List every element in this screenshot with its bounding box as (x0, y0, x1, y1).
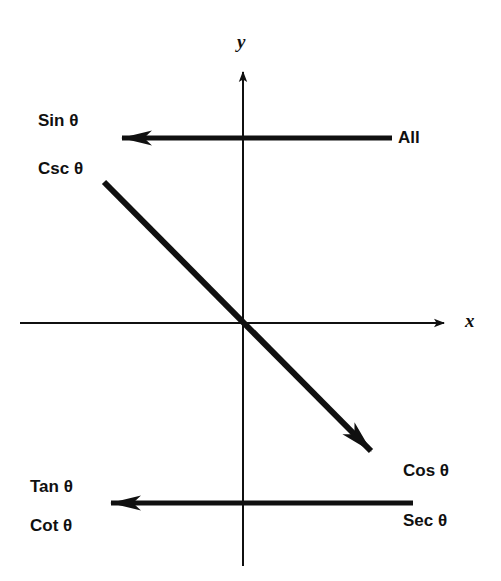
label-tan-theta: Tan θ (30, 478, 73, 495)
csc-cos-diagonal-arrow (104, 182, 371, 451)
label-all: All (398, 129, 420, 146)
label-sin-theta: Sin θ (38, 112, 78, 129)
label-csc-theta: Csc θ (38, 160, 83, 177)
diagram-canvas (0, 0, 501, 581)
label-cos-theta: Cos θ (403, 462, 449, 479)
label-sec-theta: Sec θ (403, 512, 447, 529)
x-axis-label: x (465, 311, 475, 330)
y-axis-label: y (237, 32, 245, 51)
trig-quadrant-diagram: Sin θ Csc θ All Tan θ Cot θ Cos θ Sec θ … (0, 0, 501, 581)
label-cot-theta: Cot θ (30, 517, 72, 534)
